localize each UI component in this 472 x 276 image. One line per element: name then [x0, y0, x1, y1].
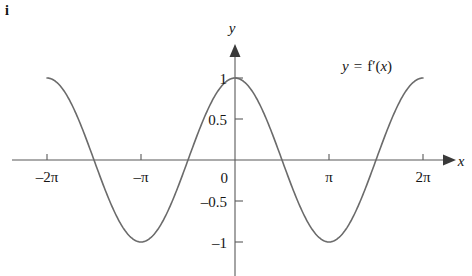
curve-annotation: y=f′(x): [340, 58, 392, 75]
y-tick-label-1: 1: [220, 71, 228, 87]
x-axis: [12, 154, 456, 166]
y-tick-label-0: 0: [221, 170, 229, 186]
x-tick-label-neg-2pi: –2π: [35, 169, 59, 185]
x-tick-label-neg-pi: –π: [132, 169, 149, 185]
curve-label-text: y=f′(x): [340, 58, 392, 75]
x-axis-arrow-icon: [443, 155, 456, 166]
curve-label-paren-close: ): [387, 58, 392, 75]
x-axis-label: x: [457, 153, 465, 169]
x-tick-label-pi: π: [325, 169, 333, 185]
figure-container: i –2π –π π 2π 1: [0, 0, 472, 276]
curve-label-equals: =: [354, 58, 362, 74]
y-tick-label-neg-1: –1: [211, 235, 227, 251]
curve-label-y: y: [340, 58, 349, 74]
y-tick-label-neg-0point5: –0.5: [200, 194, 227, 210]
y-tick-label-0point5: 0.5: [208, 112, 227, 128]
cosine-derivative-plot: –2π –π π 2π 1 0.5 0 –0.5 –1 y x y=f′(x): [0, 0, 472, 276]
y-axis-arrow-icon: [230, 44, 241, 57]
y-axis-label: y: [227, 20, 236, 36]
x-tick-label-2pi: 2π: [415, 169, 431, 185]
